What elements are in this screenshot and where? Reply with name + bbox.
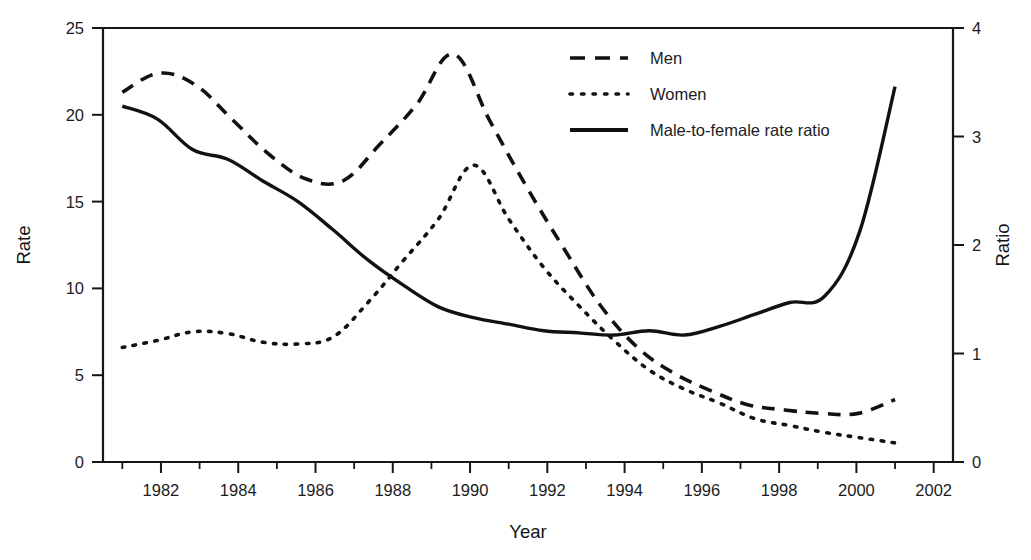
y-axis-right-tick-labels: 01234 <box>972 19 981 471</box>
chart-figure: 1982198419861988199019921994199619982000… <box>0 0 1031 560</box>
x-tick-label-1994: 1994 <box>606 481 643 499</box>
y-tick-label-15: 15 <box>66 193 84 211</box>
series-line-men <box>122 54 895 415</box>
x-tick-label-1982: 1982 <box>143 481 180 499</box>
legend-item-women: Women <box>570 85 707 103</box>
line-chart-canvas: 1982198419861988199019921994199619982000… <box>0 0 1031 560</box>
x-tick-label-1984: 1984 <box>220 481 257 499</box>
y-axis-right-ticks <box>953 28 964 462</box>
y-tick-label-5: 5 <box>75 366 84 384</box>
y-axis-left-ticks <box>92 28 103 462</box>
legend-item-ratio: Male-to-female rate ratio <box>570 121 830 139</box>
plot-frame <box>103 28 953 462</box>
legend-label-women: Women <box>650 85 707 103</box>
x-tick-label-1998: 1998 <box>761 481 798 499</box>
x-axis-tick-labels: 1982198419861988199019921994199619982000… <box>143 481 952 499</box>
y-axis-left-title: Rate <box>13 225 34 264</box>
x-tick-label-2000: 2000 <box>838 481 875 499</box>
x-tick-label-1990: 1990 <box>452 481 489 499</box>
legend-label-men: Men <box>650 49 682 67</box>
y-axis-right-title: Ratio <box>992 223 1013 266</box>
legend-label-male-to-female-rate-ratio: Male-to-female rate ratio <box>650 121 830 139</box>
x-tick-label-1992: 1992 <box>529 481 566 499</box>
y-tick-label-25: 25 <box>66 19 84 37</box>
x-tick-label-2002: 2002 <box>915 481 952 499</box>
x-tick-label-1996: 1996 <box>684 481 721 499</box>
y-axis-left-tick-labels: 0510152025 <box>66 19 84 471</box>
chart-legend: Men Women Male-to-female rate ratio <box>570 49 830 139</box>
legend-item-men: Men <box>570 49 682 67</box>
y2-tick-label-0: 0 <box>972 453 981 471</box>
y-tick-label-20: 20 <box>66 106 84 124</box>
y2-tick-label-4: 4 <box>972 19 981 37</box>
x-tick-label-1986: 1986 <box>297 481 334 499</box>
x-tick-label-1988: 1988 <box>374 481 411 499</box>
x-axis-title: Year <box>509 521 546 542</box>
data-series-group <box>122 54 895 443</box>
y2-tick-label-1: 1 <box>972 345 981 363</box>
y-tick-label-10: 10 <box>66 279 84 297</box>
y2-tick-label-2: 2 <box>972 236 981 254</box>
y-tick-label-0: 0 <box>75 453 84 471</box>
y2-tick-label-3: 3 <box>972 128 981 146</box>
